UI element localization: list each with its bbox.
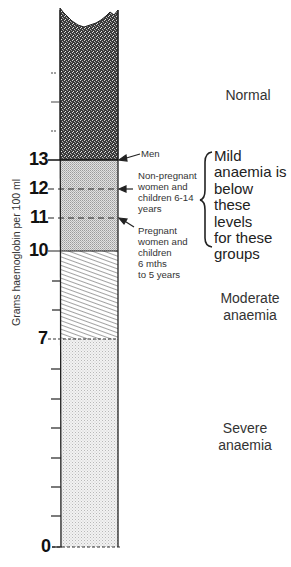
y-axis-label: Grams haemoglobin per 100 ml	[10, 196, 22, 326]
minor-ticks-severe	[51, 369, 61, 516]
arrow-men	[119, 154, 140, 161]
group-label-nonpregnant: Non-pregnant women and children 6-14 yea…	[138, 170, 197, 214]
tick-label-11: 11	[30, 207, 48, 228]
haemoglobin-column-diagram	[0, 0, 291, 567]
zone-label-normal: Normal	[208, 87, 288, 104]
tick-label-0: 0	[41, 536, 51, 557]
zone-label-moderate: Moderate anaemia	[205, 290, 291, 324]
group-label-men: Men	[141, 148, 160, 159]
mild-anaemia-note: Mild anaemia is below these levels for t…	[214, 148, 291, 263]
severe-zone	[61, 339, 118, 547]
mild-zone	[60, 160, 118, 251]
zone-label-severe: Severe anaemia	[205, 420, 285, 454]
minor-ticks-moderate	[52, 281, 60, 310]
minor-ticks-upper	[51, 73, 60, 131]
moderate-zone	[60, 251, 118, 339]
group-label-pregnant: Pregnant women and children 6 mths to 5 …	[138, 225, 188, 280]
arrow-pregnant	[119, 218, 134, 227]
normal-zone	[60, 8, 118, 160]
tick-label-10: 10	[29, 240, 48, 261]
tick-label-12: 12	[29, 178, 48, 199]
tick-label-13: 13	[29, 149, 48, 170]
tick-label-7: 7	[38, 328, 48, 349]
mild-brace	[200, 152, 212, 247]
arrow-nonpregnant	[119, 186, 133, 192]
